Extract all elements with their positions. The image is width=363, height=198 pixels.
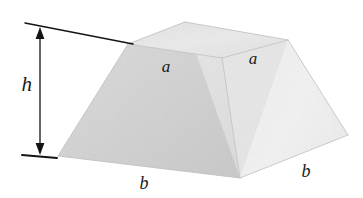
leader-line-bottom [22,155,57,158]
height-arrowhead-down [36,143,45,155]
label-bottom-edge-b-left: b [140,174,149,192]
frustum-solid [58,22,348,178]
height-arrowhead-up [36,27,45,39]
label-top-edge-a-right: a [249,50,258,67]
label-height-h: h [22,74,33,95]
label-top-edge-a-left: a [162,58,171,75]
label-bottom-edge-b-right: b [302,162,311,180]
frustum-figure: h a a b b [0,0,363,198]
